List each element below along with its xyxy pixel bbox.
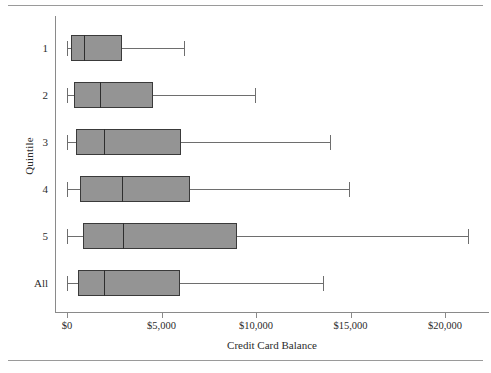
x-axis-tick-label: $10,000 [221, 320, 291, 331]
x-axis-tick [445, 313, 446, 318]
x-axis-title: Credit Card Balance [55, 339, 489, 351]
box-rect [80, 176, 190, 202]
upper-whisker-line [181, 142, 330, 143]
upper-whisker-line [237, 236, 468, 237]
upper-whisker-cap [349, 182, 350, 197]
x-axis-tick-label: $0 [32, 320, 102, 331]
median-line [104, 270, 105, 296]
median-line [100, 82, 101, 108]
x-axis-tick [351, 313, 352, 318]
lower-whisker-cap [67, 88, 68, 103]
lower-whisker-line [67, 236, 83, 237]
lower-whisker-line [67, 95, 74, 96]
box-rect [71, 35, 122, 61]
lower-whisker-cap [67, 182, 68, 197]
lower-whisker-line [67, 189, 80, 190]
median-line [104, 129, 105, 155]
boxplot-figure: Quintile Credit Card Balance 12345All $0… [0, 0, 491, 373]
x-axis-tick [67, 313, 68, 318]
y-axis-tick-label: 3 [0, 136, 48, 148]
y-axis-line [55, 16, 56, 313]
figure-top-rule [8, 5, 483, 6]
x-axis-tick-label: $5,000 [127, 320, 197, 331]
upper-whisker-line [180, 283, 323, 284]
median-line [84, 35, 85, 61]
upper-whisker-cap [330, 135, 331, 150]
y-axis-tick-label: All [0, 277, 48, 289]
lower-whisker-line [67, 142, 76, 143]
box-rect [78, 270, 180, 296]
x-axis-tick-label: $15,000 [316, 320, 386, 331]
y-axis-tick-label: 5 [0, 230, 48, 242]
figure-bottom-rule [8, 360, 483, 361]
y-axis-tick-label: 2 [0, 89, 48, 101]
x-axis-tick-label: $20,000 [410, 320, 480, 331]
upper-whisker-cap [468, 229, 469, 244]
box-rect [74, 82, 153, 108]
lower-whisker-cap [67, 135, 68, 150]
lower-whisker-cap [67, 41, 68, 56]
lower-whisker-cap [67, 276, 68, 291]
upper-whisker-cap [184, 41, 185, 56]
lower-whisker-cap [67, 229, 68, 244]
upper-whisker-line [122, 48, 184, 49]
upper-whisker-cap [323, 276, 324, 291]
upper-whisker-cap [255, 88, 256, 103]
lower-whisker-line [67, 283, 78, 284]
upper-whisker-line [153, 95, 255, 96]
median-line [123, 223, 124, 249]
median-line [122, 176, 123, 202]
x-axis-tick [162, 313, 163, 318]
y-axis-tick-label: 4 [0, 183, 48, 195]
y-axis-tick-label: 1 [0, 42, 48, 54]
x-axis-tick [256, 313, 257, 318]
box-rect [76, 129, 181, 155]
x-axis-line [55, 312, 489, 313]
upper-whisker-line [190, 189, 349, 190]
box-rect [83, 223, 237, 249]
